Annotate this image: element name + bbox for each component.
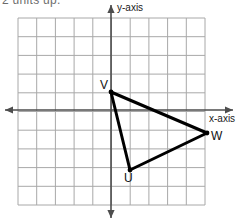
arrow-up-icon (107, 5, 114, 13)
coordinate-plane-svg (0, 0, 240, 222)
x-axis-label: x-axis (209, 113, 235, 124)
arrow-down-icon (107, 210, 114, 218)
triangle-outline (111, 92, 207, 170)
arrow-left-icon (5, 106, 13, 113)
triangle-uvw (111, 92, 207, 170)
vertex-label-u: U (124, 171, 133, 185)
vertex-point-w (205, 131, 210, 136)
coordinate-plane-figure: 2 units up. (0, 0, 240, 222)
vertex-label-v: V (100, 78, 108, 92)
x-axis-line (5, 106, 233, 113)
vertex-markers (109, 90, 210, 173)
y-axis-label: y-axis (117, 2, 143, 13)
vertex-label-w: W (211, 129, 222, 143)
vertex-point-v (109, 90, 114, 95)
